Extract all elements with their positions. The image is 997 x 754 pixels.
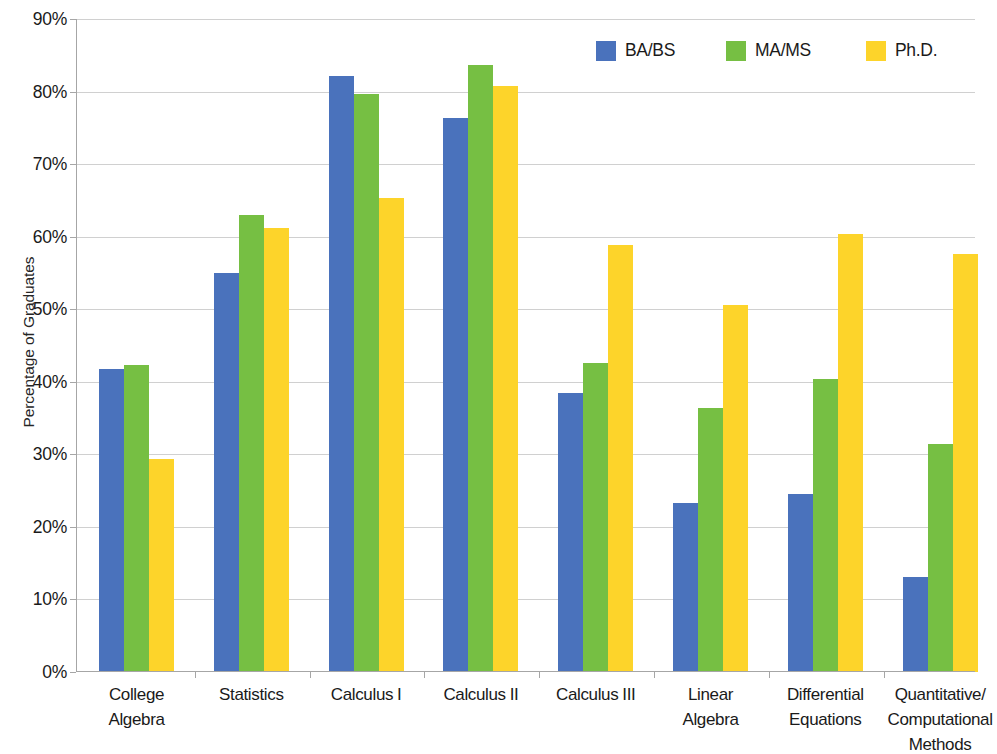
x-axis-label: DifferentialEquations	[765, 682, 885, 732]
x-axis-label-line: Quantitative/	[880, 682, 997, 707]
x-axis-separator	[424, 672, 425, 678]
x-axis-label-line: Linear	[651, 682, 771, 707]
y-axis-tick-label: 60%	[33, 226, 67, 247]
gridline	[76, 19, 975, 20]
bar	[583, 363, 608, 672]
bar	[124, 365, 149, 672]
bar	[329, 76, 354, 672]
x-axis-separator	[195, 672, 196, 678]
bar	[379, 198, 404, 673]
x-axis-label-line: Differential	[765, 682, 885, 707]
x-axis-label-line: Algebra	[651, 707, 771, 732]
x-axis-label: CollegeAlgebra	[77, 682, 197, 732]
bar	[608, 245, 633, 672]
x-axis-label: Calculus III	[536, 682, 656, 707]
bar	[99, 369, 124, 672]
bar	[673, 503, 698, 672]
x-axis-label: Calculus II	[421, 682, 541, 707]
bar	[813, 379, 838, 672]
x-axis-label-line: Methods	[880, 732, 997, 754]
bar	[928, 444, 953, 672]
y-axis-tick-label: 70%	[33, 154, 67, 175]
x-axis-separator	[654, 672, 655, 678]
legend-item: MA/MS	[726, 40, 866, 61]
bar	[214, 273, 239, 672]
bar	[903, 577, 928, 672]
x-axis-label: LinearAlgebra	[651, 682, 771, 732]
gridline	[76, 92, 975, 93]
bar	[838, 234, 863, 672]
legend-swatch-icon	[596, 41, 616, 61]
y-axis-tick-label: 80%	[33, 81, 67, 102]
legend-label: BA/BS	[625, 40, 675, 61]
x-axis-label-line: Equations	[765, 707, 885, 732]
y-axis-tick	[70, 672, 76, 673]
bar	[264, 228, 289, 672]
bar	[723, 305, 748, 672]
y-axis-tick-label: 50%	[33, 299, 67, 320]
plot-area: 0%10%20%30%40%50%60%70%80%90%	[76, 19, 975, 672]
y-axis-line	[76, 19, 77, 672]
x-axis-label-line: Calculus III	[536, 682, 656, 707]
bar	[354, 94, 379, 672]
x-axis-separator	[539, 672, 540, 678]
x-axis-separator	[884, 672, 885, 678]
legend-swatch-icon	[726, 41, 746, 61]
x-axis-line	[76, 671, 975, 672]
x-axis-label: Quantitative/ComputationalMethods	[880, 682, 997, 754]
legend-item: Ph.D.	[866, 40, 937, 61]
x-axis-label-line: Algebra	[77, 707, 197, 732]
x-axis-separator	[769, 672, 770, 678]
bar	[493, 86, 518, 672]
legend-label: MA/MS	[755, 40, 811, 61]
legend-item: BA/BS	[596, 40, 726, 61]
bar	[443, 118, 468, 672]
x-axis-label-line: Statistics	[191, 682, 311, 707]
legend-label: Ph.D.	[895, 40, 937, 61]
y-axis-tick-label: 20%	[33, 516, 67, 537]
x-axis-label: Calculus I	[306, 682, 426, 707]
x-axis-separator	[310, 672, 311, 678]
y-axis-tick-label: 10%	[33, 589, 67, 610]
bar	[953, 254, 978, 672]
x-axis-label-line: College	[77, 682, 197, 707]
bar	[468, 65, 493, 672]
x-axis-label-line: Calculus I	[306, 682, 426, 707]
legend-swatch-icon	[866, 41, 886, 61]
bar	[698, 408, 723, 672]
bar	[558, 393, 583, 672]
x-axis-label-line: Computational	[880, 707, 997, 732]
bar	[149, 459, 174, 672]
y-axis-tick-label: 40%	[33, 371, 67, 392]
y-axis-tick-label: 0%	[42, 662, 67, 683]
gridline	[76, 164, 975, 165]
y-axis-tick-label: 90%	[33, 9, 67, 30]
x-axis-label: Statistics	[191, 682, 311, 707]
y-axis-tick-label: 30%	[33, 444, 67, 465]
x-axis-label-line: Calculus II	[421, 682, 541, 707]
bar	[239, 215, 264, 672]
y-axis-title: Percentage of Graduates	[20, 232, 38, 452]
bar	[788, 494, 813, 672]
legend: BA/BSMA/MSPh.D.	[596, 40, 937, 61]
